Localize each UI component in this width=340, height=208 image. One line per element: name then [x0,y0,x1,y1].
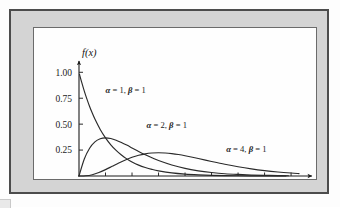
series-annotation: α = 2, β = 1 [147,120,187,130]
figure-root: 0123456780.250.500.751.00f(x)xα = 1, β =… [0,0,340,207]
y-axis-title: f(x) [82,47,97,59]
figure-outer-frame: 0123456780.250.500.751.00f(x)xα = 1, β =… [9,9,329,194]
gamma-density-chart: 0123456780.250.500.751.00f(x)xα = 1, β =… [34,28,317,180]
plot-panel: 0123456780.250.500.751.00f(x)xα = 1, β =… [33,27,317,180]
y-tick-label: 0.25 [55,145,72,155]
y-tick-label: 0.75 [55,94,72,104]
series-annotation: α = 1, β = 1 [106,85,146,95]
y-tick-label: 0.50 [55,120,72,130]
page-edge-sliver [0,199,11,207]
y-tick-label: 1.00 [55,68,72,78]
series-annotation: α = 4, β = 1 [226,144,266,154]
density-curve [79,153,299,176]
